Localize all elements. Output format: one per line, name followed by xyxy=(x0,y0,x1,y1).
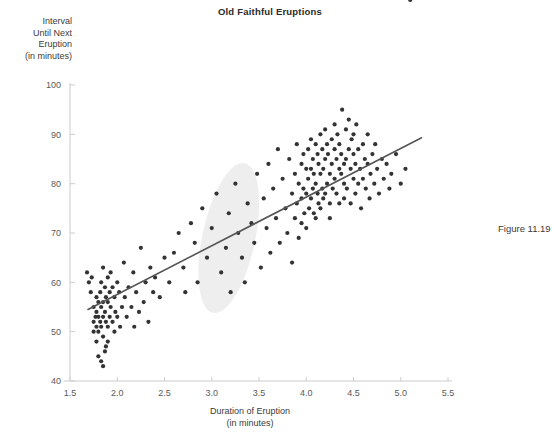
data-point xyxy=(314,182,318,186)
data-point xyxy=(293,216,297,220)
data-point xyxy=(295,142,299,146)
data-point xyxy=(106,339,110,343)
axis-layer xyxy=(64,83,452,381)
data-point xyxy=(337,201,341,205)
data-point xyxy=(246,201,250,205)
data-point xyxy=(337,167,341,171)
data-point xyxy=(94,339,98,343)
data-point xyxy=(302,211,306,215)
x-axis-tick-label: 4.5 xyxy=(347,388,360,398)
data-point xyxy=(200,206,204,210)
data-point xyxy=(290,191,294,195)
data-point xyxy=(321,167,325,171)
data-point xyxy=(115,280,119,284)
data-point xyxy=(318,206,322,210)
data-point xyxy=(172,251,176,255)
data-point xyxy=(309,167,313,171)
data-point xyxy=(344,127,348,131)
data-point xyxy=(123,295,127,299)
data-point xyxy=(299,162,303,166)
data-point xyxy=(326,152,330,156)
data-point xyxy=(367,196,371,200)
data-point xyxy=(345,187,349,191)
data-point xyxy=(103,285,107,289)
data-point xyxy=(266,162,270,166)
data-point xyxy=(219,270,223,274)
data-point xyxy=(334,191,338,195)
data-point xyxy=(110,320,114,324)
data-point xyxy=(129,305,133,309)
y-axis-tick-label: 90 xyxy=(51,130,61,140)
data-point xyxy=(109,305,113,309)
data-point xyxy=(311,157,315,161)
data-point xyxy=(312,172,316,176)
x-axis-tick-label: 3.5 xyxy=(253,388,266,398)
data-point xyxy=(350,137,354,141)
data-point xyxy=(370,152,374,156)
y-axis-tick-label: 70 xyxy=(51,228,61,238)
data-point xyxy=(243,280,247,284)
x-axis-tick-label: 1.5 xyxy=(64,388,77,398)
data-point xyxy=(363,157,367,161)
data-point xyxy=(96,330,100,334)
data-point xyxy=(356,147,360,151)
y-axis-tick-label: 80 xyxy=(51,179,61,189)
data-point xyxy=(342,182,346,186)
data-point xyxy=(92,330,96,334)
data-point xyxy=(148,265,152,269)
data-point xyxy=(330,137,334,141)
data-point xyxy=(205,256,209,260)
data-point xyxy=(361,142,365,146)
data-point xyxy=(309,196,313,200)
data-point xyxy=(262,196,266,200)
data-point xyxy=(137,310,141,314)
data-point xyxy=(351,177,355,181)
data-point xyxy=(99,280,103,284)
data-point xyxy=(304,226,308,230)
data-point xyxy=(316,162,320,166)
data-point xyxy=(290,261,294,265)
data-point xyxy=(377,191,381,195)
data-point xyxy=(158,295,162,299)
data-point xyxy=(98,320,102,324)
data-point xyxy=(193,241,197,245)
data-point xyxy=(306,147,310,151)
data-point xyxy=(90,275,94,279)
data-point xyxy=(333,177,337,181)
data-point xyxy=(311,187,315,191)
data-point xyxy=(108,290,112,294)
data-point xyxy=(96,354,100,358)
data-point xyxy=(252,241,256,245)
data-point xyxy=(334,157,338,161)
data-point xyxy=(99,305,103,309)
data-point xyxy=(94,325,98,329)
data-point xyxy=(115,315,119,319)
data-point xyxy=(328,216,332,220)
x-axis-tick-label: 4.0 xyxy=(300,388,313,398)
data-point xyxy=(146,320,150,324)
data-point xyxy=(403,167,407,171)
y-axis-tick-label: 40 xyxy=(51,376,61,386)
data-point xyxy=(134,290,138,294)
data-point xyxy=(349,167,353,171)
data-point xyxy=(285,231,289,235)
data-point xyxy=(323,127,327,131)
y-axis-tick-label: 50 xyxy=(51,327,61,337)
data-point xyxy=(315,152,319,156)
data-point xyxy=(167,280,171,284)
data-point xyxy=(101,364,105,368)
data-point xyxy=(309,137,313,141)
data-point xyxy=(399,182,403,186)
data-point xyxy=(98,290,102,294)
data-point xyxy=(314,216,318,220)
data-point xyxy=(120,305,124,309)
y-axis-tick-label: 60 xyxy=(51,278,61,288)
data-point xyxy=(278,241,282,245)
data-point xyxy=(177,231,181,235)
data-point xyxy=(162,256,166,260)
data-point xyxy=(109,270,113,274)
data-point xyxy=(301,187,305,191)
trend-line-layer xyxy=(88,138,422,310)
data-point xyxy=(359,206,363,210)
data-point xyxy=(408,0,412,2)
